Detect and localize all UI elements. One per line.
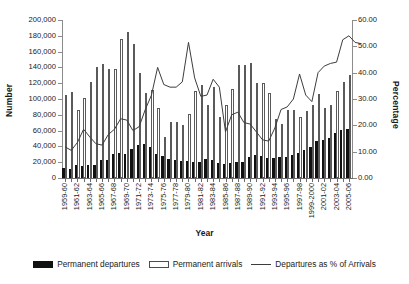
x-tick-mark <box>226 178 227 182</box>
x-tick-mark <box>238 178 239 182</box>
x-tick-label: 1967-68 <box>110 183 118 210</box>
legend-swatch-arrivals-icon <box>149 261 169 268</box>
y-tick-label-left: 40,000 <box>4 142 56 150</box>
y-tick-label-left: 140,000 <box>4 63 56 71</box>
x-tick-mark <box>127 178 128 182</box>
y-tick-label-right: 60.00 <box>358 16 398 24</box>
legend-item-arrivals: Permanent arrivals <box>149 259 243 269</box>
x-tick-label: 1971-72 <box>135 183 143 210</box>
y-tick-label-left: 180,000 <box>4 32 56 40</box>
x-tick-label: 1991-92 <box>259 183 267 210</box>
x-tick-mark <box>182 178 183 182</box>
x-tick-mark <box>96 178 97 182</box>
y-tick-mark-right <box>353 125 357 126</box>
x-tick-mark <box>90 178 91 182</box>
x-tick-mark <box>343 178 344 182</box>
x-tick-mark <box>300 178 301 182</box>
x-tick-label: 1997-98 <box>296 183 304 210</box>
x-tick-mark <box>306 178 307 182</box>
chart-legend: Permanent departures Permanent arrivals … <box>0 254 409 274</box>
x-tick-mark <box>158 178 159 182</box>
x-tick-mark <box>121 178 122 182</box>
x-tick-mark <box>65 178 66 182</box>
x-tick-label: 1989-90 <box>246 183 254 210</box>
x-tick-mark <box>102 178 103 182</box>
x-tick-label: 1979-80 <box>184 183 192 210</box>
y-tick-mark-right <box>353 73 357 74</box>
x-tick-label: 1969-70 <box>123 183 131 210</box>
x-axis-title: Year <box>0 228 409 238</box>
y-tick-label-left: 20,000 <box>4 158 56 166</box>
x-tick-label: 1995-96 <box>283 183 291 210</box>
legend-label-percentage: Departures as % of Arrivals <box>275 259 376 269</box>
x-tick-mark <box>195 178 196 182</box>
x-tick-label: 1993-94 <box>271 183 279 210</box>
x-tick-mark <box>312 178 313 182</box>
x-tick-mark <box>250 178 251 182</box>
x-tick-label: 1983-84 <box>209 183 217 210</box>
y-tick-label-right: 10.00 <box>358 148 398 156</box>
x-tick-mark <box>287 178 288 182</box>
legend-label-departures: Permanent departures <box>57 259 140 269</box>
y-tick-label-left: 60,000 <box>4 127 56 135</box>
y-tick-label-left: 0 <box>4 174 56 182</box>
x-tick-label: 1999-2000 <box>308 183 316 218</box>
x-tick-mark <box>256 178 257 182</box>
y-tick-label-right: 40.00 <box>358 69 398 77</box>
x-tick-mark <box>318 178 319 182</box>
legend-item-percentage: Departures as % of Arrivals <box>251 259 376 269</box>
y-tick-mark-right <box>353 99 357 100</box>
chart-root: Number Percentage 020,00040,00060,00080,… <box>0 0 409 284</box>
y-axis-right-ticks: 0.0010.0020.0030.0040.0050.0060.00 <box>358 0 404 284</box>
x-tick-mark <box>188 178 189 182</box>
y-tick-label-left: 200,000 <box>4 16 56 24</box>
x-tick-label: 1963-64 <box>86 183 94 210</box>
x-tick-mark <box>77 178 78 182</box>
x-tick-label: 1965-66 <box>98 183 106 210</box>
x-tick-mark <box>201 178 202 182</box>
x-tick-mark <box>145 178 146 182</box>
y-axis-left-ticks: 020,00040,00060,00080,000100,000120,0001… <box>0 0 56 284</box>
legend-item-departures: Permanent departures <box>33 259 140 269</box>
x-tick-mark <box>84 178 85 182</box>
y-tick-mark-right <box>353 178 357 179</box>
x-tick-mark <box>151 178 152 182</box>
x-tick-label: 1981-82 <box>197 183 205 210</box>
x-tick-mark <box>71 178 72 182</box>
x-tick-mark <box>330 178 331 182</box>
x-tick-mark <box>269 178 270 182</box>
x-tick-mark <box>164 178 165 182</box>
x-tick-mark <box>349 178 350 182</box>
y-tick-label-left: 80,000 <box>4 111 56 119</box>
x-tick-label: 1973-74 <box>147 183 155 210</box>
x-tick-label: 1961-62 <box>73 183 81 210</box>
x-tick-label: 1987-88 <box>234 183 242 210</box>
y-tick-label-right: 0.00 <box>358 174 398 182</box>
x-tick-mark <box>108 178 109 182</box>
percentage-line-series <box>62 20 352 178</box>
y-tick-label-left: 160,000 <box>4 48 56 56</box>
legend-swatch-departures-icon <box>33 261 53 268</box>
x-tick-mark <box>244 178 245 182</box>
x-tick-mark <box>207 178 208 182</box>
x-tick-label: 1977-78 <box>172 183 180 210</box>
y-tick-label-right: 50.00 <box>358 42 398 50</box>
x-tick-mark <box>324 178 325 182</box>
percentage-line-path <box>65 36 361 151</box>
x-tick-label: 1985-86 <box>222 183 230 210</box>
x-tick-label: 1975-76 <box>160 183 168 210</box>
x-tick-mark <box>176 178 177 182</box>
legend-swatch-line-icon <box>251 261 271 268</box>
y-tick-label-left: 100,000 <box>4 95 56 103</box>
x-tick-mark <box>133 178 134 182</box>
legend-label-arrivals: Permanent arrivals <box>173 259 243 269</box>
x-tick-label: 1959-60 <box>61 183 69 210</box>
x-tick-mark <box>114 178 115 182</box>
y-tick-mark-right <box>353 152 357 153</box>
y-tick-label-right: 30.00 <box>358 95 398 103</box>
x-tick-mark <box>263 178 264 182</box>
x-tick-mark <box>281 178 282 182</box>
x-tick-mark <box>219 178 220 182</box>
y-tick-label-left: 120,000 <box>4 79 56 87</box>
x-tick-mark <box>139 178 140 182</box>
